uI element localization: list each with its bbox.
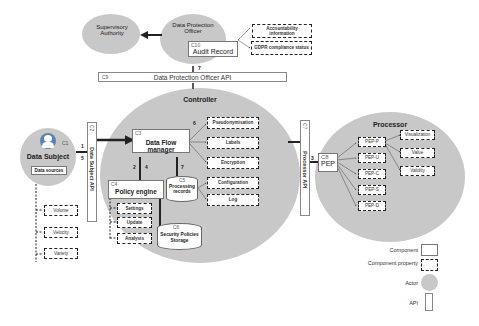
processing-records-component: C5 Processing records <box>166 176 198 202</box>
c5-name: Processing records <box>167 184 197 194</box>
c8-name: PEP <box>319 160 337 167</box>
c6-name: Security Policies Storage <box>158 232 201 243</box>
prop-accountability-information: Accountability information <box>252 24 312 38</box>
flow-number-7b: 7 <box>181 164 184 170</box>
audit-record-component: C10 Audit Record <box>188 41 238 57</box>
policy-engine-component: C4 Policy engine <box>108 180 164 199</box>
data-sources-label: Data sources <box>32 168 66 173</box>
prop-labels: Labels <box>207 137 259 149</box>
prop-visualization: Visualization <box>400 130 435 140</box>
prop-encryption: Encryption <box>207 157 259 169</box>
data-sources-box: Data sources <box>31 166 67 175</box>
c7-id: C7 <box>302 123 308 129</box>
flow-number-2: 2 <box>133 164 136 170</box>
legend-property-swatch <box>421 259 438 271</box>
c3-name: Data Flow manager <box>133 139 189 153</box>
data-subject-api: C2 Data Subject API <box>87 122 97 222</box>
c9-name: Data Protection Officer API <box>99 74 286 81</box>
flow-number-7a: 7 <box>198 65 201 71</box>
prop-variety: Variety <box>44 248 78 259</box>
legend-component-label: Component <box>360 247 418 253</box>
prop-pep-u: PEP-U <box>358 153 386 163</box>
prop-pep-s: PEP-S <box>358 185 386 195</box>
prop-gdpr-compliance-status: GDPR compliance status <box>251 41 312 55</box>
prop-velocity: Velocity <box>44 227 78 238</box>
prop-update: Update <box>117 217 152 228</box>
prop-value: Value <box>400 148 435 158</box>
prop-volume: Volume <box>44 205 78 216</box>
processor-api: C7 Processor API <box>300 120 310 216</box>
legend-api-swatch <box>425 293 433 311</box>
pep-component: C8 PEP <box>318 153 338 172</box>
prop-pep-d: PEP-D <box>358 201 386 211</box>
prop-pep-c: PEP-C <box>358 169 386 179</box>
c5-id: C5 <box>179 177 185 183</box>
flow-number-6: 6 <box>193 120 196 126</box>
flow-number-3: 3 <box>311 155 314 161</box>
flow-number-4: 4 <box>145 164 148 170</box>
c4-name: Policy engine <box>109 188 163 195</box>
c3-id: C3 <box>135 130 141 136</box>
legend-api-label: API <box>380 300 418 306</box>
c6-id: C6 <box>173 224 179 230</box>
security-policies-storage-component: C6 Security Policies Storage <box>157 223 202 250</box>
prop-configuration: Configuration <box>207 177 259 189</box>
c2-id: C2 <box>89 125 95 131</box>
data-flow-manager-component: C3 Data Flow manager <box>132 129 190 153</box>
legend-component-swatch <box>421 244 438 256</box>
legend-actor-label: Actor <box>380 280 418 286</box>
flow-number-5: 5 <box>81 155 84 161</box>
dpo-api: C9 Data Protection Officer API <box>98 72 287 82</box>
legend-actor-swatch <box>421 274 438 291</box>
prop-settings: Settings <box>117 203 152 214</box>
prop-pep-p: PEP-P <box>358 137 386 147</box>
prop-validity: Validity <box>400 166 435 176</box>
prop-analysis: Analysis <box>117 233 152 244</box>
c2-name: Data Subject API <box>89 147 95 191</box>
flow-number-1: 1 <box>81 143 84 149</box>
c10-name: Audit Record <box>189 48 237 55</box>
prop-log: Log <box>207 194 259 206</box>
legend-property-label: Component property <box>340 260 418 266</box>
c7-name: Processor API <box>302 151 308 188</box>
prop-pseudonymisation: Pseudonymisation <box>207 117 259 129</box>
c4-id: C4 <box>111 181 117 187</box>
